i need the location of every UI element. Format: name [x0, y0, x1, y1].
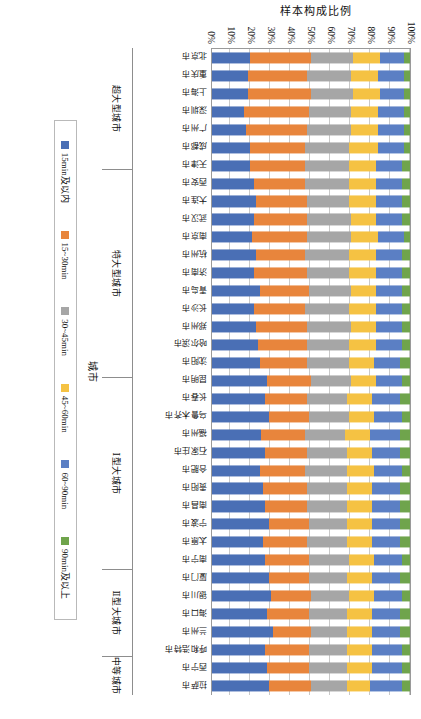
bar-segment	[347, 608, 373, 619]
x-tick-label: 郑州市	[135, 318, 209, 336]
y-axis-title-text: 样本构成比例	[280, 2, 352, 18]
stacked-bar[interactable]	[212, 70, 410, 81]
bar-slot[interactable]	[212, 300, 410, 318]
bar-slot[interactable]	[212, 157, 410, 175]
stacked-bar[interactable]	[212, 537, 410, 548]
legend-item[interactable]: 15min及以内	[59, 141, 72, 203]
bar-segment	[347, 465, 375, 476]
bar-slot[interactable]	[212, 246, 410, 264]
bar-slot[interactable]	[212, 318, 410, 336]
bar-segment	[351, 124, 379, 135]
stacked-bar[interactable]	[212, 555, 410, 566]
stacked-bar[interactable]	[212, 106, 410, 117]
bar-segment	[267, 662, 309, 673]
stacked-bar[interactable]	[212, 465, 410, 476]
stacked-bar[interactable]	[212, 304, 410, 315]
stacked-bar[interactable]	[212, 519, 410, 530]
stacked-bar[interactable]	[212, 375, 410, 386]
stacked-bar[interactable]	[212, 160, 410, 171]
stacked-bar[interactable]	[212, 501, 410, 512]
bar-segment	[307, 124, 351, 135]
bar-slot[interactable]	[212, 587, 410, 605]
stacked-bar[interactable]	[212, 88, 410, 99]
legend-item[interactable]: 60~90min	[61, 460, 71, 509]
bar-slot[interactable]	[212, 103, 410, 121]
bar-segment	[370, 680, 402, 691]
bar-slot[interactable]	[212, 533, 410, 551]
bar-segment	[212, 321, 256, 332]
bar-slot[interactable]	[212, 551, 410, 569]
bar-slot[interactable]	[212, 49, 410, 67]
stacked-bar[interactable]	[212, 250, 410, 261]
stacked-bar[interactable]	[212, 429, 410, 440]
bar-segment	[269, 411, 309, 422]
stacked-bar[interactable]	[212, 321, 410, 332]
stacked-bar[interactable]	[212, 626, 410, 637]
stacked-bar[interactable]	[212, 232, 410, 243]
bar-slot[interactable]	[212, 497, 410, 515]
stacked-bar[interactable]	[212, 196, 410, 207]
stacked-bar[interactable]	[212, 268, 410, 279]
bar-segment	[212, 142, 250, 153]
bar-slot[interactable]	[212, 444, 410, 462]
bar-slot[interactable]	[212, 282, 410, 300]
bar-slot[interactable]	[212, 569, 410, 587]
bar-slot[interactable]	[212, 139, 410, 157]
bar-slot[interactable]	[212, 85, 410, 103]
bar-slot[interactable]	[212, 605, 410, 623]
y-tick-label: 90%	[386, 18, 396, 44]
bar-segment	[309, 644, 347, 655]
bar-slot[interactable]	[212, 67, 410, 85]
stacked-bar[interactable]	[212, 124, 410, 135]
stacked-bar[interactable]	[212, 447, 410, 458]
stacked-bar[interactable]	[212, 573, 410, 584]
stacked-bar[interactable]	[212, 644, 410, 655]
stacked-bar[interactable]	[212, 393, 410, 404]
stacked-bar[interactable]	[212, 680, 410, 691]
stacked-bar[interactable]	[212, 357, 410, 368]
bar-segment	[267, 375, 311, 386]
stacked-bar[interactable]	[212, 286, 410, 297]
stacked-bar[interactable]	[212, 608, 410, 619]
y-tick-label: 10%	[226, 18, 236, 44]
bar-slot[interactable]	[212, 623, 410, 641]
bar-slot[interactable]	[212, 193, 410, 211]
legend-item[interactable]: 45~60min	[61, 384, 71, 433]
legend-item[interactable]: 15~30min	[61, 231, 71, 280]
bar-segment	[212, 214, 254, 225]
bar-segment	[254, 214, 307, 225]
stacked-bar[interactable]	[212, 339, 410, 350]
bar-segment	[212, 662, 267, 673]
bar-slot[interactable]	[212, 677, 410, 695]
bar-slot[interactable]	[212, 372, 410, 390]
stacked-bar[interactable]	[212, 52, 410, 63]
stacked-bar[interactable]	[212, 178, 410, 189]
bar-slot[interactable]	[212, 408, 410, 426]
bar-slot[interactable]	[212, 228, 410, 246]
bar-slot[interactable]	[212, 336, 410, 354]
bar-slot[interactable]	[212, 264, 410, 282]
stacked-bar[interactable]	[212, 142, 410, 153]
bar-slot[interactable]	[212, 641, 410, 659]
stacked-bar[interactable]	[212, 214, 410, 225]
bar-slot[interactable]	[212, 390, 410, 408]
bar-slot[interactable]	[212, 354, 410, 372]
stacked-bar[interactable]	[212, 662, 410, 673]
bar-slot[interactable]	[212, 480, 410, 498]
stacked-bar[interactable]	[212, 411, 410, 422]
bar-slot[interactable]	[212, 210, 410, 228]
bar-segment	[376, 339, 402, 350]
bar-segment	[309, 411, 349, 422]
legend-item[interactable]: 90min及以上	[59, 537, 72, 599]
bar-segment	[349, 178, 377, 189]
legend-item[interactable]: 30~45min	[61, 307, 71, 356]
bar-slot[interactable]	[212, 515, 410, 533]
bar-slot[interactable]	[212, 659, 410, 677]
bar-slot[interactable]	[212, 121, 410, 139]
bar-slot[interactable]	[212, 462, 410, 480]
stacked-bar[interactable]	[212, 483, 410, 494]
x-tick-label: 西安市	[135, 174, 209, 192]
bar-slot[interactable]	[212, 175, 410, 193]
bar-slot[interactable]	[212, 426, 410, 444]
stacked-bar[interactable]	[212, 591, 410, 602]
